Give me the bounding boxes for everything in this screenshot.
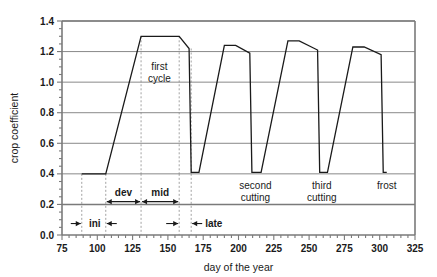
- arrow-head: [192, 221, 197, 226]
- x-tick-label: 175: [195, 243, 212, 254]
- arrow-head: [135, 199, 140, 204]
- annotation-line1: frost: [377, 180, 397, 191]
- x-tick-label: 100: [89, 243, 106, 254]
- annotation-line2: cutting: [241, 192, 270, 203]
- stage-arrow-dev: [107, 199, 140, 204]
- stage-label-dev: dev: [115, 187, 133, 198]
- annotation-line2: cycle: [148, 73, 171, 84]
- x-tick-label: 75: [56, 243, 68, 254]
- annotation-line2: cutting: [307, 192, 336, 203]
- stage-arrow-ini-right: [107, 221, 117, 226]
- y-tick-label: 0.4: [40, 168, 54, 179]
- chart-canvas: 0.00.20.40.60.81.01.21.47510012515017520…: [0, 0, 437, 277]
- y-tick-label: 0.0: [40, 230, 54, 241]
- arrow-head: [107, 221, 112, 226]
- stage-label-ini: ini: [89, 218, 101, 229]
- annotation-first-cycle: firstcycle: [148, 61, 171, 84]
- y-tick-label: 1.2: [40, 46, 54, 57]
- stage-arrow-ini-left: [71, 221, 81, 226]
- annotation-line1: third: [312, 180, 331, 191]
- arrow-head: [173, 221, 178, 226]
- stage-arrow-late-right: [192, 221, 202, 226]
- annotation-third-cutting: thirdcutting: [307, 180, 336, 203]
- y-tick-label: 1.4: [40, 16, 54, 27]
- annotation-line1: second: [239, 180, 271, 191]
- y-axis-title: crop coefficient: [8, 93, 20, 164]
- arrow-head: [142, 199, 147, 204]
- arrow-head: [173, 199, 178, 204]
- crop-coefficient-chart: 0.00.20.40.60.81.01.21.47510012515017520…: [0, 0, 437, 277]
- annotation-second-cutting: secondcutting: [239, 180, 271, 203]
- x-tick-label: 150: [160, 243, 177, 254]
- x-tick-label: 325: [407, 243, 424, 254]
- y-tick-label: 0.2: [40, 199, 54, 210]
- arrow-head: [107, 199, 112, 204]
- x-tick-label: 275: [336, 243, 353, 254]
- x-tick-label: 250: [301, 243, 318, 254]
- y-tick-label: 0.6: [40, 138, 54, 149]
- arrow-head: [76, 221, 81, 226]
- stage-arrow-mid: [142, 199, 178, 204]
- x-tick-label: 300: [371, 243, 388, 254]
- kc-curve: [82, 36, 387, 174]
- x-tick-label: 125: [124, 243, 141, 254]
- stage-label-late: late: [205, 218, 223, 229]
- stage-label-mid: mid: [151, 187, 169, 198]
- x-axis-title: day of the year: [204, 261, 274, 273]
- annotation-frost: frost: [377, 180, 397, 191]
- annotation-line1: first: [151, 61, 167, 72]
- stage-arrow-late-left: [166, 221, 178, 226]
- x-tick-label: 200: [230, 243, 247, 254]
- x-tick-label: 225: [265, 243, 282, 254]
- y-tick-label: 1.0: [40, 77, 54, 88]
- y-tick-label: 0.8: [40, 107, 54, 118]
